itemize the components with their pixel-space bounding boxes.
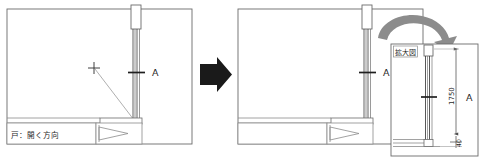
detail-sill-block xyxy=(424,140,433,147)
drawing-canvas: 戸：開く方向 A A xyxy=(0,0,481,161)
detail-head-jamb xyxy=(424,45,433,56)
detail-title-label: 拡大図 xyxy=(395,48,416,57)
right-section-label-a: A xyxy=(383,67,390,78)
cad-drawing-svg: 戸：開く方向 A A xyxy=(0,0,481,161)
detail-section-label-a: A xyxy=(466,92,473,103)
left-legend-label: 戸：開く方向 xyxy=(11,130,59,140)
right-door-head-jamb xyxy=(362,5,372,29)
detail-dimension-40-label: 40 xyxy=(455,139,462,147)
detail-panel-group: 拡大図 1750 xyxy=(391,44,478,156)
left-door-head-jamb xyxy=(131,5,141,29)
left-section-label-a: A xyxy=(152,67,159,78)
right-legend-box xyxy=(238,123,327,144)
left-panel-group: 戸：開く方向 A xyxy=(7,5,192,144)
transition-arrow xyxy=(200,57,232,92)
black-right-arrow-icon xyxy=(200,57,232,92)
detail-dimension-1750-label: 1750 xyxy=(448,87,456,105)
